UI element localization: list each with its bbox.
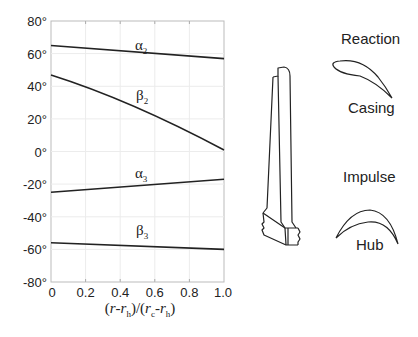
x-tick: 0.4	[111, 285, 129, 300]
x-axis-ticks: 0 0.2 0.4 0.6 0.8 1.0	[48, 285, 232, 300]
hub-label: Hub	[356, 236, 384, 253]
y-tick: 80°	[27, 14, 47, 29]
x-tick: 0	[48, 285, 55, 300]
turbine-blade-drawing	[262, 67, 300, 245]
x-axis-label: (r-rh)/(rc-rh)	[70, 300, 210, 319]
reaction-label: Reaction	[341, 30, 400, 47]
x-tick: 0.8	[180, 285, 198, 300]
y-axis-ticks: 80° 60° 40° 20° 0° -20° -40° -60° -80°	[23, 14, 47, 290]
y-tick: -80°	[23, 275, 47, 290]
y-tick: 60°	[27, 47, 47, 62]
reaction-airfoil-icon	[333, 61, 392, 98]
y-tick: -20°	[23, 177, 47, 192]
y-tick: 40°	[27, 79, 47, 94]
casing-label: Casing	[348, 99, 395, 116]
y-tick: 20°	[27, 112, 47, 127]
x-tick: 1.0	[214, 285, 232, 300]
plot-area	[51, 21, 224, 282]
y-tick: -60°	[23, 242, 47, 257]
y-tick: -40°	[23, 210, 47, 225]
y-tick: 0°	[35, 145, 47, 160]
x-tick: 0.6	[146, 285, 164, 300]
x-tick: 0.2	[77, 285, 95, 300]
impulse-label: Impulse	[343, 168, 396, 185]
